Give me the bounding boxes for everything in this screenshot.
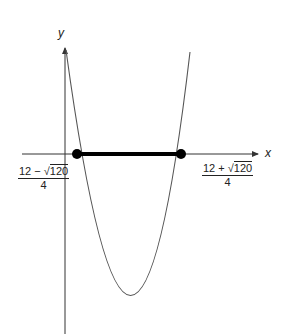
x-axis-label: x — [265, 146, 271, 160]
right-root-point — [176, 149, 186, 159]
parabola-curve — [66, 50, 190, 296]
left-root-point — [72, 149, 82, 159]
left-root-label: 12 − √120 4 — [18, 165, 69, 192]
right-root-label: 12 + √120 4 — [202, 162, 253, 189]
y-axis-label: y — [58, 26, 64, 40]
